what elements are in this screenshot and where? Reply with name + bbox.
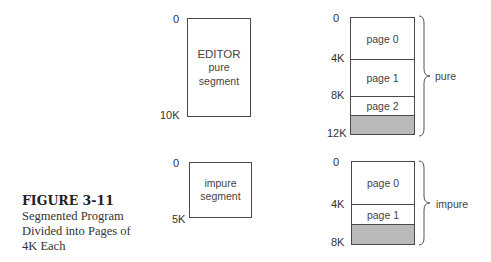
caption-line-3: 4K Each (22, 239, 131, 254)
pure-unused-shaded-area (351, 115, 414, 134)
figure-number: FIGURE 3-11 (22, 193, 114, 208)
impure-start-address: 0 (173, 158, 179, 169)
pure-address-8k: 8K (331, 90, 344, 101)
pure-brace-icon (418, 15, 432, 137)
impure-unused-shaded-area (352, 224, 414, 244)
pure-address-4k: 4K (331, 53, 344, 64)
caption-line-1: Segmented Program (22, 209, 131, 224)
pure-page-0-label: page 0 (351, 33, 414, 45)
pure-page-0: page 0 (351, 18, 414, 59)
editor-segment-type: pure (188, 61, 250, 74)
pure-address-12k: 12K (327, 128, 347, 139)
impure-address-4k: 4K (331, 199, 344, 210)
pure-address-0: 0 (333, 13, 339, 24)
pure-page-1: page 1 (351, 59, 414, 96)
impure-page-1: page 1 (352, 204, 414, 224)
impure-segment-box: impure segment (189, 162, 252, 218)
pure-page-2-label: page 2 (351, 100, 414, 112)
editor-segment-box: EDITOR pure segment (187, 18, 251, 117)
impure-page-0: page 0 (352, 162, 414, 204)
figure-caption-text: Segmented Program Divided into Pages of … (22, 209, 131, 254)
editor-end-address: 10K (160, 110, 180, 121)
impure-segment-word: segment (190, 190, 251, 203)
caption-line-2: Divided into Pages of (22, 224, 131, 239)
pure-brace-label: pure (435, 70, 456, 82)
pure-page-2: page 2 (351, 96, 414, 115)
editor-segment-word: segment (188, 75, 250, 88)
impure-end-address: 5K (172, 214, 185, 225)
pure-pages-box: page 0 page 1 page 2 (350, 17, 415, 135)
impure-address-0: 0 (333, 157, 339, 168)
impure-address-8k: 8K (331, 237, 344, 248)
editor-segment-title: EDITOR (188, 47, 250, 61)
impure-segment-title: impure (190, 177, 251, 190)
impure-pages-box: page 0 page 1 (351, 161, 415, 245)
impure-brace-label: impure (436, 198, 468, 210)
impure-brace-icon (418, 160, 432, 246)
impure-page-1-label: page 1 (352, 209, 414, 221)
pure-page-1-label: page 1 (351, 72, 414, 84)
impure-page-0-label: page 0 (352, 177, 414, 189)
